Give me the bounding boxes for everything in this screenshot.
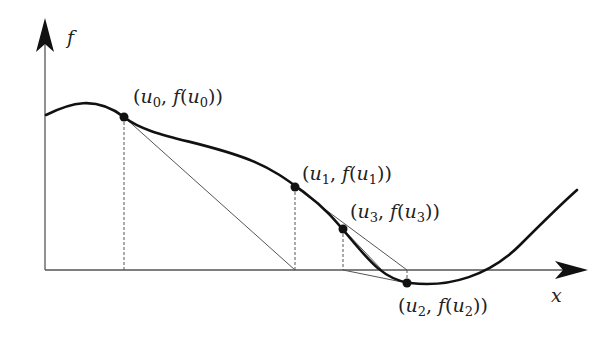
function-curve	[46, 103, 577, 284]
x-axis-label: x	[551, 284, 562, 306]
secant-method-diagram: f x (u0, f(u0)) (u1, f(u1)) (u3, f(u3)) …	[0, 0, 607, 340]
y-axis-label: f	[65, 26, 77, 48]
point-u1	[291, 183, 300, 192]
label-u2: (u2, f(u2))	[398, 294, 488, 319]
label-u0: (u0, f(u0))	[133, 85, 223, 110]
point-u3	[339, 225, 348, 234]
label-u1: (u1, f(u1))	[302, 162, 392, 187]
secant-u0-u1	[124, 117, 295, 270]
label-u3: (u3, f(u3))	[350, 200, 440, 225]
point-u2	[403, 279, 412, 288]
point-u0	[120, 113, 129, 122]
